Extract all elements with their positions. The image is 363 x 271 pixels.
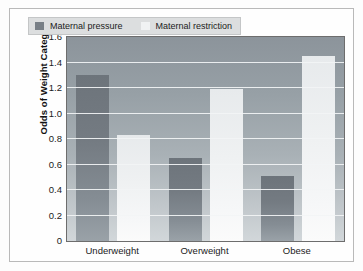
x-tick-label: Underweight (85, 245, 138, 256)
legend-swatch-icon (35, 22, 44, 30)
y-tick-label: 1.2 (30, 83, 62, 93)
bar-obese-restriction (302, 56, 335, 241)
legend-label: Maternal restriction (156, 22, 233, 31)
x-tick-label: Overweight (180, 245, 228, 256)
y-tick-label: 0.2 (30, 211, 62, 221)
y-tick-label: 1.4 (30, 58, 62, 68)
legend-swatch-icon (141, 22, 150, 30)
chart-figure: Odds of Weight Category 00.20.40.60.81.0… (0, 0, 363, 271)
y-tick-label: 0.8 (30, 134, 62, 144)
bar-overweight-pressure (169, 158, 202, 241)
legend-entry: Maternal pressure (35, 22, 123, 31)
gridline (67, 164, 344, 165)
gridline (67, 62, 344, 63)
y-tick-label: 0 (30, 236, 62, 246)
chart-legend: Maternal pressureMaternal restriction (28, 17, 241, 35)
y-axis-ticks: 00.20.40.60.81.01.21.41.6 (28, 36, 62, 242)
gridline (67, 138, 344, 139)
x-axis-ticks: UnderweightOverweightObese (66, 245, 345, 261)
legend-entry: Maternal restriction (141, 22, 233, 31)
x-tick-label: Obese (283, 245, 311, 256)
y-tick-label: 0.6 (30, 160, 62, 170)
gridline (67, 87, 344, 88)
gridline (67, 36, 344, 37)
gridline (67, 113, 344, 114)
y-tick-label: 1.0 (30, 109, 62, 119)
gridline (67, 215, 344, 216)
gridline (67, 189, 344, 190)
plot-area (66, 36, 345, 242)
bar-underweight-pressure (76, 75, 109, 241)
bar-obese-pressure (261, 176, 294, 241)
y-tick-label: 0.4 (30, 185, 62, 195)
legend-label: Maternal pressure (50, 22, 123, 31)
figure-border: Odds of Weight Category 00.20.40.60.81.0… (9, 8, 354, 262)
